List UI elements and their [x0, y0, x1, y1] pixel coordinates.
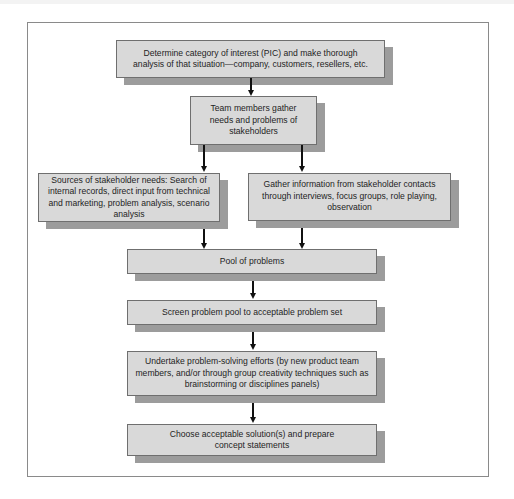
step-screen-problem-pool: Screen problem pool to acceptable proble… [127, 300, 377, 325]
step-text: Determine category of interest (PIC) and… [131, 48, 371, 71]
step-gather-information: Gather information from stakeholder cont… [248, 173, 451, 221]
step-text: Pool of problems [220, 256, 285, 268]
step-pool-of-problems: Pool of problems [127, 249, 377, 274]
step-text: Team members gather needs and problems o… [201, 103, 306, 138]
page-edge [0, 0, 514, 4]
step-text: Choose acceptable solution(s) and prepar… [157, 429, 347, 452]
step-sources-of-needs: Sources of stakeholder needs: Search of … [38, 173, 220, 222]
step-text: Gather information from stakeholder cont… [262, 179, 437, 214]
step-text: Undertake problem-solving efforts (by ne… [134, 356, 370, 391]
step-choose-solution: Choose acceptable solution(s) and prepar… [127, 424, 377, 456]
step-team-members: Team members gather needs and problems o… [190, 96, 317, 145]
step-text: Sources of stakeholder needs: Search of … [45, 175, 213, 221]
step-undertake-problem-solving: Undertake problem-solving efforts (by ne… [127, 351, 377, 396]
step-determine-pic: Determine category of interest (PIC) and… [116, 40, 385, 78]
step-text: Screen problem pool to acceptable proble… [162, 307, 342, 319]
